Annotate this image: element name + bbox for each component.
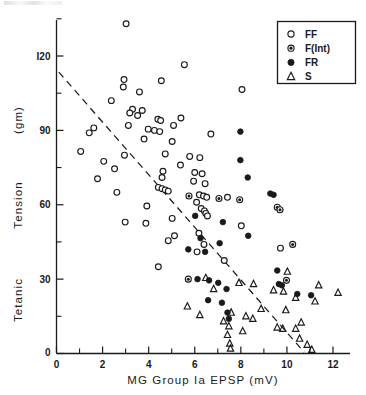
data-point-marker <box>258 305 264 311</box>
data-point-marker <box>184 303 190 309</box>
data-point-marker <box>114 189 120 195</box>
legend-symbol-0-marker <box>288 31 294 37</box>
data-point-marker <box>271 192 277 198</box>
x-axis-tick-labels: 024681012 <box>54 359 339 370</box>
y-tick-label: 0 <box>45 347 51 358</box>
data-point-marker-core <box>285 279 288 282</box>
series-s-points <box>184 268 341 352</box>
data-point-marker <box>274 268 280 274</box>
data-point-marker <box>304 341 310 347</box>
data-point-marker <box>205 297 211 303</box>
data-point-marker <box>139 108 145 114</box>
legend-label-F(Int): F(Int) <box>305 43 330 54</box>
x-tick-label: 10 <box>281 359 293 370</box>
x-tick-label: 12 <box>327 359 339 370</box>
data-point-marker <box>203 274 209 280</box>
data-point-marker <box>143 220 149 226</box>
data-point-marker-core <box>279 208 282 211</box>
series-fr-points <box>185 129 313 322</box>
data-point-marker <box>141 136 147 142</box>
data-point-marker <box>202 249 208 255</box>
data-point-marker <box>91 125 97 131</box>
data-point-marker <box>78 149 84 155</box>
data-point-marker <box>224 286 230 292</box>
data-point-marker <box>95 176 101 182</box>
data-point-marker <box>201 242 207 248</box>
regression-trendline <box>59 72 304 352</box>
data-point-marker <box>137 89 143 95</box>
data-point-marker <box>158 118 164 124</box>
y-axis-ticks <box>57 19 64 354</box>
y-axis-title-line-units: (gm) <box>12 106 24 134</box>
data-point-marker <box>198 235 204 241</box>
data-point-marker <box>284 268 290 274</box>
y-axis-tick-labels: 0306090I20 <box>37 51 51 358</box>
data-point-marker <box>121 77 127 83</box>
data-point-marker <box>194 199 200 205</box>
data-point-marker <box>169 215 175 221</box>
x-axis-ticks <box>57 347 334 354</box>
x-tick-label: 6 <box>192 359 198 370</box>
data-point-marker <box>199 171 205 177</box>
data-point-marker <box>208 131 214 137</box>
x-tick-label: 4 <box>146 359 152 370</box>
data-point-marker <box>123 21 129 27</box>
data-point-marker-core <box>238 198 241 201</box>
data-point-marker-core <box>217 197 220 200</box>
data-point-marker <box>250 280 256 286</box>
data-point-marker <box>125 123 131 129</box>
data-point-marker <box>250 315 256 321</box>
data-point-marker <box>195 276 201 282</box>
data-point-marker <box>159 175 165 181</box>
legend-label-FR: FR <box>305 57 319 68</box>
data-point-marker <box>127 110 133 116</box>
data-point-marker <box>169 139 175 145</box>
data-point-marker <box>145 126 151 132</box>
data-point-marker <box>191 178 197 184</box>
data-point-marker <box>197 155 203 161</box>
legend: FFF(Int)FRS <box>278 22 356 84</box>
y-tick-label: 60 <box>39 199 51 210</box>
data-point-marker <box>122 152 128 158</box>
data-point-marker-core <box>187 278 190 281</box>
data-point-marker <box>221 258 227 264</box>
data-point-marker <box>108 98 114 104</box>
data-point-marker <box>335 289 341 295</box>
data-point-marker <box>192 170 198 176</box>
data-point-marker <box>298 319 304 325</box>
data-point-marker <box>245 233 251 239</box>
data-point-marker <box>160 168 166 174</box>
data-point-marker <box>172 233 178 239</box>
data-point-marker <box>217 240 223 246</box>
data-point-marker <box>219 300 225 306</box>
x-tick-label: 0 <box>54 359 60 370</box>
y-axis-title-line-tension: Tension <box>12 181 24 228</box>
x-axis-title-text: MG Group Ia EPSP (mV) <box>127 374 278 386</box>
data-point-marker <box>158 78 164 84</box>
data-point-marker <box>181 62 187 68</box>
data-point-marker <box>240 327 246 333</box>
series-ff-points <box>78 21 284 270</box>
data-point-marker <box>86 130 92 136</box>
data-point-marker <box>312 298 318 304</box>
data-point-marker <box>220 219 226 225</box>
scatter-plot-figure: 0306090I20 024681012 MG Group Ia EPSP (m… <box>0 0 366 395</box>
y-axis-title-line-tetanic: Tetanic <box>12 278 24 322</box>
data-point-marker <box>308 292 314 298</box>
data-point-marker <box>144 203 150 209</box>
data-point-marker <box>122 219 128 225</box>
data-point-marker <box>243 313 249 319</box>
data-point-marker <box>101 158 107 164</box>
data-point-marker <box>112 166 118 172</box>
data-point-marker-core <box>291 243 294 246</box>
data-point-marker <box>296 335 302 341</box>
data-point-marker <box>215 280 221 286</box>
data-point-marker <box>239 87 245 93</box>
data-point-marker <box>135 113 141 119</box>
data-point-marker <box>155 264 161 270</box>
data-point-marker <box>225 194 231 200</box>
data-point-marker <box>238 223 244 229</box>
data-point-marker <box>192 213 198 219</box>
x-tick-label: 2 <box>100 359 106 370</box>
data-point-marker <box>245 175 251 181</box>
